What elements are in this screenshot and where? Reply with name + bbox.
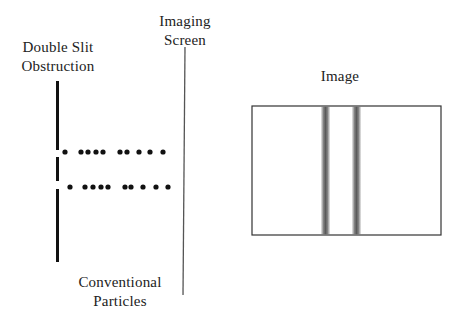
screen-label-line2: Screen xyxy=(150,31,220,50)
particle-dot xyxy=(124,149,129,154)
particle-dot xyxy=(67,184,72,189)
conventional-particles-label: Conventional Particles xyxy=(70,273,170,311)
particle-dot xyxy=(85,149,90,154)
imaging-screen-label: Imaging Screen xyxy=(150,12,220,50)
particle-dot xyxy=(136,149,141,154)
particles-label-line2: Particles xyxy=(70,292,170,311)
double-slit-diagram: Double Slit Obstruction Imaging Screen I… xyxy=(0,0,460,321)
particle-dot xyxy=(117,149,122,154)
particle-dot xyxy=(98,184,103,189)
double-slit-obstruction xyxy=(56,81,59,262)
particle-dot xyxy=(78,149,83,154)
particle-dot xyxy=(140,184,145,189)
double-slit-obstruction-label: Double Slit Obstruction xyxy=(14,38,102,76)
particle-dot xyxy=(62,149,67,154)
particle-dot xyxy=(90,184,95,189)
slit-label-line1: Double Slit xyxy=(14,38,102,57)
image-frame xyxy=(252,106,441,235)
image-label: Image xyxy=(310,67,370,86)
particle-rows xyxy=(62,149,170,189)
imaging-screen-line xyxy=(183,47,185,295)
particle-dot xyxy=(105,184,110,189)
obstruction-segment xyxy=(56,81,59,150)
slit-label-line2: Obstruction xyxy=(14,57,102,76)
obstruction-segment xyxy=(56,157,59,181)
particles-label-line1: Conventional xyxy=(70,273,170,292)
obstruction-segment xyxy=(56,189,59,262)
particle-dot xyxy=(160,149,165,154)
particle-dot xyxy=(153,184,158,189)
interference-band xyxy=(352,107,362,235)
particle-dot xyxy=(82,184,87,189)
image-panel xyxy=(252,106,441,235)
particle-dot xyxy=(165,184,170,189)
particle-dot xyxy=(147,149,152,154)
particle-dot xyxy=(100,149,105,154)
particle-dot xyxy=(122,184,127,189)
screen-label-line1: Imaging xyxy=(150,12,220,31)
particle-dot xyxy=(93,149,98,154)
interference-band xyxy=(321,107,331,235)
particle-dot xyxy=(128,184,133,189)
